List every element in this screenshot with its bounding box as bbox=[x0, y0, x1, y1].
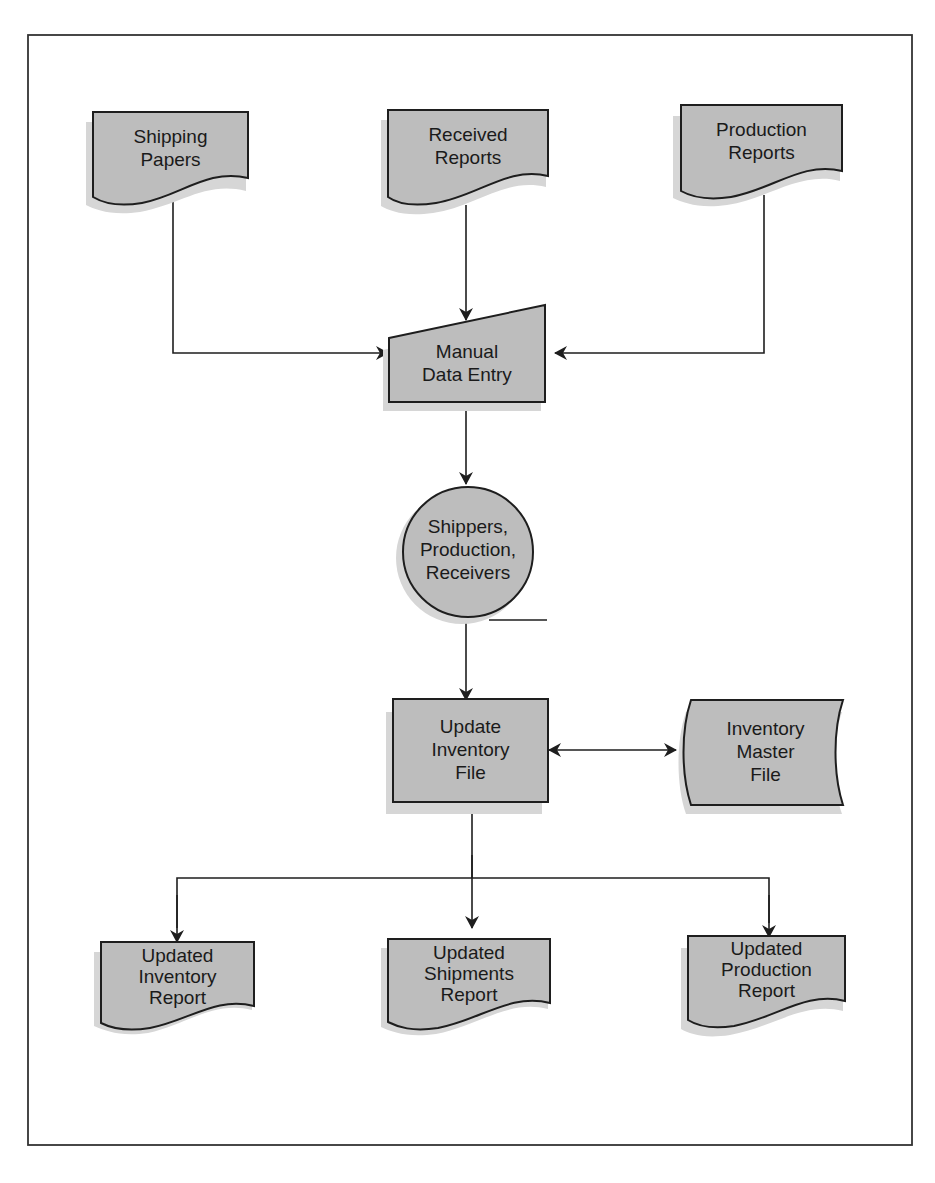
label-update-inventory: Update Inventory File bbox=[393, 715, 548, 784]
label-updated-shipments: Updated Shipments Report bbox=[388, 942, 550, 1005]
label-received-reports: Received Reports bbox=[388, 123, 548, 169]
label-updated-inventory: Updated Inventory Report bbox=[101, 945, 254, 1008]
label-production-reports: Production Reports bbox=[681, 118, 842, 164]
label-updated-production: Updated Production Report bbox=[688, 938, 845, 1001]
label-master-file: Inventory Master File bbox=[688, 717, 843, 786]
label-connector: Shippers, Production, Receivers bbox=[403, 515, 533, 584]
label-manual-data-entry: Manual Data Entry bbox=[389, 340, 545, 386]
label-shipping-papers: Shipping Papers bbox=[93, 125, 248, 171]
